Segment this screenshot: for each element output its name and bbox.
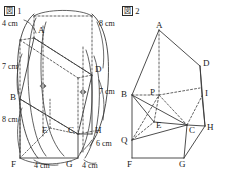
fig1-vertex-H: H (95, 125, 102, 135)
fig1-inner-arc-2 (41, 22, 64, 156)
fig2-vertex-B: B (121, 89, 127, 99)
fig1-top-curve (34, 10, 92, 16)
fig1-edge-DC (78, 75, 92, 134)
fig1-vertex-G: G (66, 159, 73, 169)
fig2-vertex-P: P (150, 87, 155, 97)
figure-2-drawing: A B C D E F G H I P Q (118, 0, 225, 172)
fig2-vertex-F: F (127, 159, 132, 169)
figure-sheet: 図 1 (0, 0, 225, 172)
fig1-vertex-E: E (42, 125, 48, 135)
fig2-edge-GC (184, 125, 187, 158)
fig1-vertex-F: F (11, 159, 16, 169)
fig2-vertex-C: C (189, 125, 195, 135)
figure-2: 図 2 (118, 0, 225, 172)
fig1-center-marks (40, 84, 86, 94)
fig1-dim-7cm-left: 7 cm (2, 62, 19, 71)
fig1-left-arc (18, 14, 38, 158)
fig1-hidden-edges (20, 16, 94, 158)
fig2-vertex-D: D (203, 58, 210, 68)
fig1-dim-6cm-right: 6 cm (96, 139, 113, 148)
fig1-edge-BA (20, 38, 34, 99)
fig2-vertex-A: A (156, 20, 163, 30)
fig2-vertex-G: G (179, 159, 186, 169)
fig2-vertex-E: E (156, 120, 162, 130)
fig2-edge-AD (159, 30, 200, 66)
fig1-vertex-C: C (68, 125, 74, 135)
fig2-vertex-H: H (207, 122, 214, 132)
fig1-dim-8cm-right: 8 cm (99, 19, 116, 28)
fig1-vertex-A: A (38, 25, 45, 35)
fig1-vertex-D: D (95, 64, 102, 74)
fig1-dim-7cm-right: 7 cm (99, 87, 116, 96)
fig1-vertex-labels: A B C D E F G H (10, 25, 102, 169)
fig2-vertex-Q: Q (121, 135, 128, 145)
fig2-vertex-labels: A B C D E F G H I P Q (121, 20, 214, 169)
fig2-edge-AB (132, 30, 159, 95)
fig1-dim-4cm-bottom-left: 4 cm (34, 161, 51, 170)
fig1-vertex-B: B (10, 92, 16, 102)
fig1-dim-8cm-left: 8 cm (2, 115, 19, 124)
figure-1: 図 1 (0, 0, 120, 172)
fig1-dim-4cm-top: 4 cm (2, 19, 19, 28)
fig1-dim-4cm-bottom-right: 4 cm (82, 161, 99, 170)
figure-1-drawing: A B C D E F G H 4 cm 7 cm 8 cm 8 cm 7 cm… (0, 0, 120, 172)
fig2-vertex-I: I (205, 88, 208, 98)
